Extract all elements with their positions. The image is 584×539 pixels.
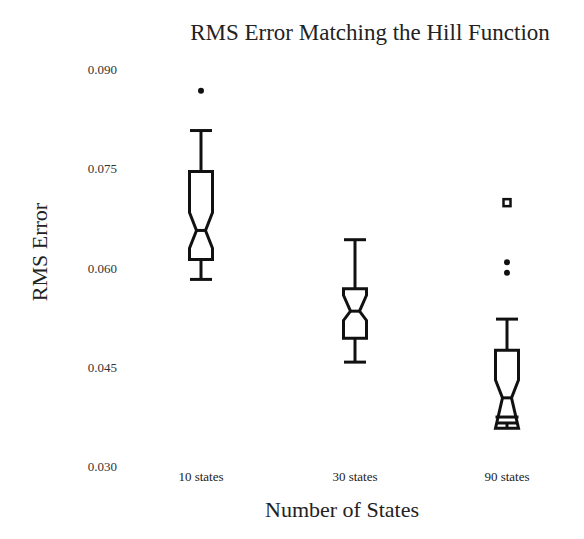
outlier-dot <box>504 259 510 265</box>
chart-title: RMS Error Matching the Hill Function <box>190 20 550 45</box>
box-3 <box>496 199 519 428</box>
y-axis-ticks: 0.0300.0450.0600.0750.090 <box>88 62 117 474</box>
x-axis-title: Number of States <box>265 497 419 522</box>
box-1 <box>190 88 213 280</box>
boxes-group <box>190 88 519 428</box>
x-axis-categories: 10 states30 states90 states <box>178 469 529 484</box>
outlier-dot <box>504 270 510 276</box>
x-tick-label: 30 states <box>332 469 377 484</box>
box-2 <box>344 240 367 362</box>
outlier-square <box>504 199 511 206</box>
y-tick-label: 0.060 <box>88 261 117 276</box>
notched-box <box>190 172 213 260</box>
x-tick-label: 90 states <box>484 469 529 484</box>
y-tick-label: 0.075 <box>88 161 117 176</box>
y-axis-title: RMS Error <box>27 202 52 301</box>
y-tick-label: 0.045 <box>88 360 117 375</box>
outlier-dot <box>198 88 204 94</box>
y-tick-label: 0.090 <box>88 62 117 77</box>
boxplot-chart: RMS Error Matching the Hill Function RMS… <box>0 0 584 539</box>
x-tick-label: 10 states <box>178 469 223 484</box>
notched-box <box>344 289 367 339</box>
y-tick-label: 0.030 <box>88 459 117 474</box>
